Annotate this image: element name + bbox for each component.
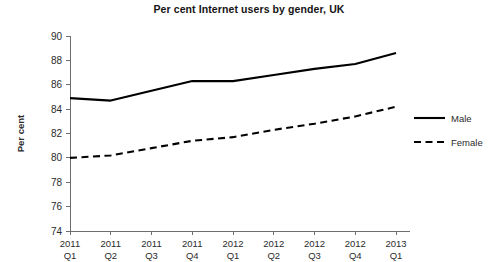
- x-tick-label-year: 2011: [182, 238, 202, 249]
- x-tick-label-year: 2012: [263, 238, 284, 249]
- x-tick-label-year: 2011: [141, 238, 161, 249]
- legend-label-female: Female: [451, 137, 483, 148]
- y-tick-label: 86: [51, 79, 63, 90]
- x-tick-label-year: 2012: [304, 238, 325, 249]
- x-tick-label-quarter: Q3: [308, 250, 321, 261]
- x-tick-label-quarter: Q1: [227, 250, 240, 261]
- y-axis: 747678808284868890: [51, 31, 70, 237]
- x-tick-label-quarter: Q4: [349, 250, 362, 261]
- x-tick-label-year: 2011: [60, 238, 80, 249]
- x-tick-label-quarter: Q4: [186, 250, 199, 261]
- x-tick-label-year: 2012: [345, 238, 366, 249]
- y-tick-label: 80: [51, 152, 63, 163]
- x-tick-label-year: 2013: [385, 238, 406, 249]
- y-tick-label: 88: [51, 55, 63, 66]
- chart-legend: MaleFemale: [414, 113, 483, 148]
- series-line-male: [70, 53, 396, 101]
- chart-plot-area: 747678808284868890 2011Q12011Q22011Q3201…: [0, 0, 498, 262]
- x-tick-label-quarter: Q1: [390, 250, 403, 261]
- y-tick-label: 76: [51, 201, 63, 212]
- y-tick-label: 78: [51, 177, 63, 188]
- x-tick-label-quarter: Q2: [267, 250, 280, 261]
- legend-label-male: Male: [451, 113, 472, 124]
- y-tick-label: 82: [51, 128, 63, 139]
- x-axis: 2011Q12011Q22011Q32011Q42012Q12012Q22012…: [60, 231, 410, 261]
- x-tick-label-quarter: Q1: [64, 250, 77, 261]
- series-lines: [70, 53, 396, 158]
- y-tick-label: 74: [51, 226, 63, 237]
- x-tick-label-year: 2012: [222, 238, 243, 249]
- y-axis-title: Per cent: [15, 114, 26, 152]
- chart-container: Per cent Internet users by gender, UK 74…: [0, 0, 498, 262]
- x-tick-label-quarter: Q2: [104, 250, 117, 261]
- x-tick-label-quarter: Q3: [145, 250, 158, 261]
- y-tick-label: 90: [51, 31, 63, 42]
- y-axis-title-text: Per cent: [15, 114, 26, 152]
- series-line-female: [70, 107, 396, 158]
- y-tick-label: 84: [51, 104, 63, 115]
- x-tick-label-year: 2011: [101, 238, 121, 249]
